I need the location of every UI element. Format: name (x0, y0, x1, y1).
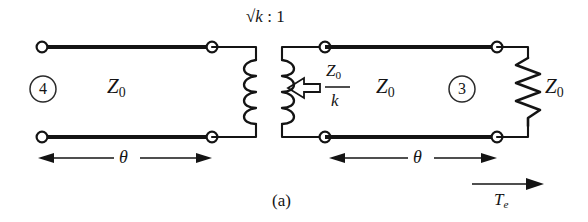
left-line-impedance-subscript: 0 (119, 85, 126, 100)
theta-left-arrowhead-start (38, 153, 54, 163)
left-line-impedance-symbol: Z (107, 74, 119, 98)
theta-left-arrowhead-end (196, 153, 212, 163)
secondary-bottom-lead (282, 124, 325, 137)
theta-right-label: θ (413, 148, 422, 166)
theta-right-arrowhead-start (329, 153, 345, 163)
transformer-primary-coil (244, 60, 256, 124)
right-line-impedance-label: Z0 (376, 76, 395, 100)
right-line-impedance-symbol: Z (376, 74, 388, 98)
theta-left-label: θ (119, 148, 128, 166)
load-impedance-label: Z0 (545, 76, 564, 100)
transformer-secondary-coil (282, 60, 294, 124)
port3-number-label: 3 (449, 76, 475, 102)
primary-top-lead (212, 47, 256, 60)
transformer-ratio-label: √k : 1 (246, 8, 285, 25)
te-arrowhead (526, 178, 544, 190)
sqrt-k-term: √k (246, 7, 263, 26)
looking-in-impedance-denominator: k (331, 92, 339, 109)
right-line-impedance-subscript: 0 (388, 85, 395, 100)
load-impedance-symbol: Z (545, 74, 557, 98)
secondary-top-lead (282, 47, 325, 60)
left-line-impedance-label: Z0 (107, 76, 126, 100)
load-impedance-subscript: 0 (557, 85, 564, 100)
transmission-coefficient-label: Te (494, 191, 508, 210)
port4-number-label: 4 (30, 76, 56, 102)
figure-container: √k : 1 Z0 Z0 Z0 4 3 Z0 k θ θ Te (a) (0, 0, 588, 222)
transmission-coefficient-arrow (472, 178, 544, 190)
terminal-port4-top (37, 42, 48, 53)
ratio-separator: : (263, 7, 276, 26)
load-resistor-zigzag (516, 58, 540, 126)
circuit-schematic (0, 0, 588, 222)
te-subscript: e (503, 198, 508, 210)
looking-in-impedance-numerator: Z0 (326, 62, 341, 81)
terminal-port4-bottom (37, 132, 48, 143)
left-transmission-line (42, 47, 212, 137)
looking-in-numerator-subscript: 0 (335, 69, 341, 81)
load-branch (497, 47, 540, 137)
figure-caption: (a) (272, 192, 291, 209)
theta-right-arrowhead-end (481, 153, 497, 163)
primary-bottom-lead (212, 124, 256, 137)
sqrt-k-symbol: √k (246, 7, 263, 26)
ratio-second-term: 1 (276, 7, 285, 26)
